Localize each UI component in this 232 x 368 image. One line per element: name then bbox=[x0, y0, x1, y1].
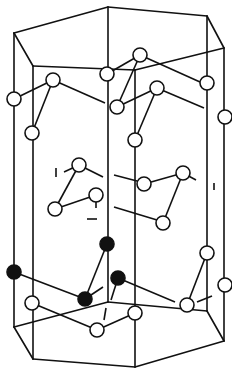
bond-line bbox=[197, 296, 212, 302]
bond-line bbox=[117, 55, 140, 107]
open-atom bbox=[176, 166, 190, 180]
open-atoms bbox=[7, 48, 232, 337]
bond-line bbox=[163, 173, 183, 223]
open-atom bbox=[218, 110, 232, 124]
bond-line bbox=[114, 175, 137, 181]
filled-atom bbox=[100, 237, 114, 251]
bond-line bbox=[53, 80, 105, 103]
open-atom bbox=[110, 100, 124, 114]
open-atom bbox=[46, 73, 60, 87]
atom-bonds bbox=[14, 55, 212, 330]
open-atom bbox=[150, 81, 164, 95]
open-atom bbox=[72, 158, 86, 172]
top-edge bbox=[14, 33, 33, 66]
bond-line bbox=[118, 278, 175, 302]
bond-line bbox=[187, 253, 207, 305]
open-atom bbox=[156, 216, 170, 230]
open-atom bbox=[128, 306, 142, 320]
unit-cell-svg bbox=[0, 0, 232, 368]
open-atom bbox=[128, 133, 142, 147]
bond-line bbox=[14, 272, 85, 299]
open-atom bbox=[25, 126, 39, 140]
top-edge bbox=[108, 7, 207, 16]
hexagonal-prism-frame bbox=[14, 7, 224, 367]
bottom-edge bbox=[207, 311, 224, 341]
bottom-edge bbox=[33, 359, 135, 367]
bottom-edge bbox=[14, 327, 33, 359]
open-atom bbox=[133, 48, 147, 62]
bond-line bbox=[104, 308, 106, 320]
bottom-edge bbox=[135, 341, 224, 367]
open-atom bbox=[180, 298, 194, 312]
bond-line bbox=[140, 55, 200, 82]
open-atom bbox=[48, 202, 62, 216]
filled-atom bbox=[7, 265, 21, 279]
open-atom bbox=[25, 296, 39, 310]
crystal-structure-diagram bbox=[0, 0, 232, 368]
open-atom bbox=[89, 188, 103, 202]
top-edge bbox=[207, 16, 224, 48]
bond-line bbox=[135, 88, 157, 140]
open-atom bbox=[200, 246, 214, 260]
open-atom bbox=[7, 92, 21, 106]
filled-atom bbox=[78, 292, 92, 306]
open-atom bbox=[137, 177, 151, 191]
filled-atom bbox=[111, 271, 125, 285]
open-atom bbox=[90, 323, 104, 337]
open-atom bbox=[218, 278, 232, 292]
top-edge bbox=[14, 7, 108, 33]
open-atom bbox=[200, 76, 214, 90]
open-atom bbox=[100, 67, 114, 81]
